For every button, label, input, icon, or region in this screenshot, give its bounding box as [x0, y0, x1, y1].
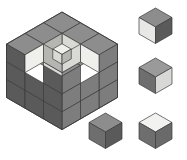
isometric-scene: [0, 0, 187, 160]
cube-puzzle-figure: [0, 0, 187, 160]
